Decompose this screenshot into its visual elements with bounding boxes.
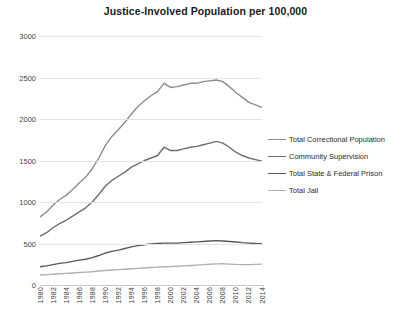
x-tick-label: 2000 <box>167 287 174 303</box>
series-line <box>40 264 262 275</box>
gridline <box>40 78 262 79</box>
chart-container: Justice-Involved Population per 100,000 … <box>0 0 411 319</box>
legend-item[interactable]: Community Supervision <box>268 148 410 165</box>
legend-label: Total State & Federal Prison <box>289 169 382 178</box>
gridline <box>40 244 262 245</box>
x-tick-label: 1986 <box>76 287 83 303</box>
x-tick-label: 1984 <box>63 287 70 303</box>
x-tick-label: 1996 <box>141 287 148 303</box>
legend-line-icon <box>268 173 286 175</box>
gridline <box>40 119 262 120</box>
x-tick-label: 2004 <box>193 287 200 303</box>
series-line <box>40 241 262 267</box>
plot-area <box>40 36 262 285</box>
x-tick-label: 1994 <box>128 287 135 303</box>
x-tick-label: 2006 <box>206 287 213 303</box>
x-tick-label: 1998 <box>154 287 161 303</box>
gridline <box>40 161 262 162</box>
series-line <box>40 80 262 217</box>
chart-legend: Total Correctional PopulationCommunity S… <box>268 131 410 199</box>
y-tick-label: 1500 <box>2 157 36 166</box>
x-tick-label: 2014 <box>259 287 266 303</box>
x-tick-label: 1982 <box>50 287 57 303</box>
y-tick-label: 1000 <box>2 198 36 207</box>
legend-item[interactable]: Total Jail <box>268 182 410 199</box>
y-tick-label: 2500 <box>2 74 36 83</box>
y-tick-label: 2000 <box>2 115 36 124</box>
y-axis: 050010001500200025003000 <box>0 36 36 285</box>
x-tick-label: 1980 <box>37 287 44 303</box>
x-tick-label: 1988 <box>89 287 96 303</box>
x-tick-label: 2008 <box>219 287 226 303</box>
legend-item[interactable]: Total Correctional Population <box>268 131 410 148</box>
legend-line-icon <box>268 139 286 141</box>
x-axis-line <box>40 285 264 286</box>
x-tick-label: 2002 <box>180 287 187 303</box>
gridline <box>40 36 262 37</box>
legend-label: Total Jail <box>289 186 318 195</box>
legend-label: Total Correctional Population <box>289 135 385 144</box>
legend-line-icon <box>268 190 286 192</box>
chart-title: Justice-Involved Population per 100,000 <box>0 5 411 17</box>
legend-line-icon <box>268 156 286 158</box>
y-tick-label: 500 <box>2 240 36 249</box>
y-tick-label: 0 <box>2 281 36 290</box>
x-tick-label: 1992 <box>115 287 122 303</box>
legend-label: Community Supervision <box>289 152 368 161</box>
x-tick-label: 2010 <box>232 287 239 303</box>
gridline <box>40 202 262 203</box>
x-axis: 1980198219841986198819901992199419961998… <box>40 287 264 319</box>
x-tick-label: 2012 <box>245 287 252 303</box>
y-tick-label: 3000 <box>2 32 36 41</box>
x-tick-label: 1990 <box>102 287 109 303</box>
legend-item[interactable]: Total State & Federal Prison <box>268 165 410 182</box>
